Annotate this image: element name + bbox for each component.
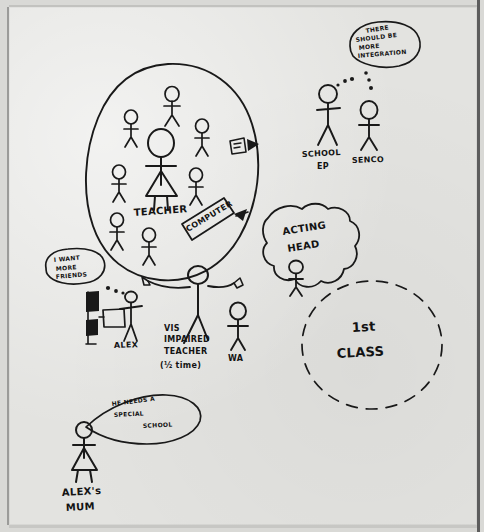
student-figure xyxy=(164,87,180,127)
vi-teacher-arm-left xyxy=(148,281,190,288)
alex-group[interactable]: ALEX xyxy=(86,291,142,350)
teacher-label: TEACHER xyxy=(133,203,187,218)
friends-speech-bubble[interactable]: I WANT MORE FRIENDS xyxy=(46,249,125,295)
vi-teacher-arm-right xyxy=(208,283,234,287)
wa-label: WA xyxy=(228,354,244,363)
acting-head-group[interactable]: ACTING HEAD xyxy=(263,204,359,296)
student-figure xyxy=(142,228,156,265)
alex-label: ALEX xyxy=(114,340,139,350)
school-ep-figure xyxy=(317,85,340,145)
school-ep-group[interactable]: SCHOOL EP xyxy=(302,85,341,171)
acting-head-figure xyxy=(289,261,303,297)
vi-teacher-figure xyxy=(184,266,208,343)
friends-bubble-dots xyxy=(106,286,125,295)
alexs-mum-label-line2: MUM xyxy=(66,500,95,512)
special-school-line-1: HE NEEDS A xyxy=(111,395,155,407)
alexs-mum-group[interactable]: ALEX's MUM xyxy=(62,422,102,513)
senco-group[interactable]: SENCO xyxy=(352,101,384,165)
vi-teacher-label-line2: IMPAIRED xyxy=(164,335,210,344)
alex-figure xyxy=(120,292,142,342)
friends-line-1: I WANT xyxy=(53,254,80,263)
friends-line-3: FRIENDS xyxy=(55,270,87,280)
whiteboard-object[interactable] xyxy=(230,138,246,154)
special-school-line-3: SCHOOL xyxy=(143,420,173,429)
senco-figure xyxy=(359,101,379,150)
wa-group[interactable]: WA xyxy=(228,303,248,364)
special-school-line-2: SPECIAL xyxy=(114,409,144,418)
teacher-figure xyxy=(146,129,177,210)
ep-thought-dots xyxy=(336,77,354,87)
acting-head-label-line1: ACTING xyxy=(282,219,327,237)
acting-head-label-line2: HEAD xyxy=(287,238,321,254)
first-class-label-line2: CLASS xyxy=(336,344,384,361)
wa-figure xyxy=(228,303,248,351)
first-class-label-line1: 1st xyxy=(351,319,376,335)
vi-teacher-hand-right xyxy=(234,278,243,288)
diagram-artwork: TEACHER COMPUTER SCHOOL EP xyxy=(0,0,484,532)
screenshot-canvas: TEACHER COMPUTER SCHOOL EP xyxy=(0,0,484,532)
student-figure xyxy=(110,213,124,250)
bubble-tail-dots xyxy=(364,71,373,90)
special-school-speech-bubble[interactable]: HE NEEDS A SPECIAL SCHOOL xyxy=(86,395,201,444)
student-figure xyxy=(189,168,203,205)
first-class-group[interactable]: 1st CLASS xyxy=(302,281,442,409)
integration-speech-bubble[interactable]: THERE SHOULD BE MORE INTEGRATION xyxy=(336,22,420,90)
school-ep-label-line2: EP xyxy=(317,162,329,171)
vi-teacher-label-line3: TEACHER xyxy=(164,347,207,356)
student-figure xyxy=(112,165,126,202)
classroom-group[interactable]: TEACHER COMPUTER xyxy=(86,64,259,280)
vi-teacher-label-line1: VIS xyxy=(164,324,180,333)
senco-label: SENCO xyxy=(352,155,384,165)
student-figure xyxy=(124,110,138,147)
school-ep-label-line1: SCHOOL xyxy=(302,148,341,159)
alex-desk xyxy=(103,309,125,327)
vi-teacher-label-line4: (½ time) xyxy=(160,360,201,370)
student-figure xyxy=(195,119,209,156)
alexs-mum-label-line1: ALEX's xyxy=(62,485,102,498)
